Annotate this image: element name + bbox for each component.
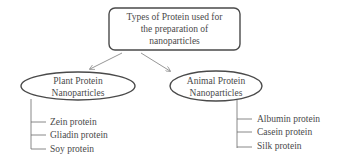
diagram-canvas: Types of Protein used for the preparatio… [0,0,340,162]
animal-protein-list: Albumin protein Casein protein Silk prot… [237,100,320,151]
animal-item: Silk protein [257,141,302,151]
plant-item: Zein protein [50,117,97,127]
animal-line-1: Animal Protein [187,76,246,86]
plant-item: Soy protein [50,144,94,154]
animal-item: Casein protein [257,127,312,137]
arrow-to-plant [90,53,122,69]
plant-line-2: Nanoparticles [52,88,105,98]
animal-line-2: Nanoparticles [190,88,243,98]
plant-item: Gliadin protein [50,130,108,140]
root-line-1: Types of Protein used for [127,12,224,22]
root-line-3: nanoparticles [149,36,200,46]
plant-protein-node: Plant Protein Nanoparticles [21,72,135,100]
plant-line-1: Plant Protein [53,76,103,86]
root-line-2: the preparation of [141,24,209,34]
root-node: Types of Protein used for the preparatio… [109,8,240,50]
animal-protein-node: Animal Protein Nanoparticles [170,71,262,101]
plant-protein-list: Zein protein Gliadin protein Soy protein [31,99,108,154]
arrow-to-animal [141,53,170,71]
animal-item: Albumin protein [257,114,320,124]
